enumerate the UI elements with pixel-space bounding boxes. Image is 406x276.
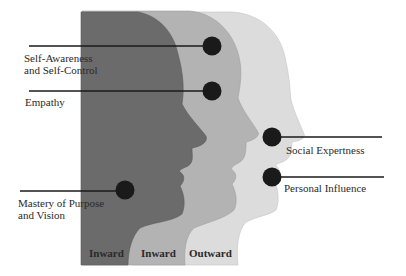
head-label-inward-dark: Inward: [89, 247, 124, 259]
callout-label-empathy-line1: Empathy: [25, 96, 65, 108]
head-label-inward-medium: Inward: [141, 247, 176, 259]
marker-mastery: [116, 181, 135, 200]
heads-illustration: [0, 0, 406, 276]
marker-empathy: [203, 82, 222, 101]
marker-social-expertness: [263, 128, 282, 147]
marker-personal-influence: [263, 168, 282, 187]
emotional-intelligence-heads-diagram: Self-Awareness and Self-Control Empathy …: [0, 0, 406, 276]
marker-self-awareness: [203, 37, 222, 56]
head-label-outward-light: Outward: [189, 247, 232, 259]
callout-label-self-awareness-line2: and Self-Control: [24, 64, 98, 76]
callout-label-personal-influence: Personal Influence: [284, 182, 366, 194]
callout-label-social-expertness-line1: Social Expertness: [286, 144, 365, 156]
callout-label-mastery-line1: Mastery of Purpose: [18, 197, 104, 209]
callout-label-self-awareness-line1: Self-Awareness: [24, 52, 98, 64]
callout-label-mastery: Mastery of Purpose and Vision: [18, 197, 104, 221]
callout-label-social-expertness: Social Expertness: [286, 144, 365, 156]
callout-label-self-awareness: Self-Awareness and Self-Control: [24, 52, 98, 76]
callout-label-personal-influence-line1: Personal Influence: [284, 182, 366, 194]
callout-label-empathy: Empathy: [25, 96, 65, 108]
callout-label-mastery-line2: and Vision: [18, 209, 104, 221]
